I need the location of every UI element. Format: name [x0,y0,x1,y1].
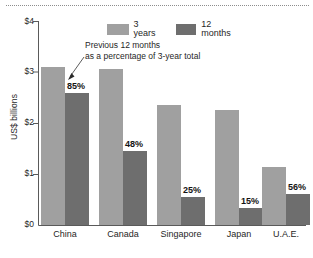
data-label-uae: 56% [288,183,306,192]
annotation-line-2: as a percentage of 3-year total [85,51,200,62]
annotation-line-1: Previous 12 months [85,40,200,51]
bar-canada-3-years [99,69,123,225]
x-tick-uae: U.A.E. [256,230,313,239]
bar-uae-3-years [262,167,286,225]
annotation-arrowhead [68,73,75,80]
chart-annotation: Previous 12 months as a percentage of 3-… [85,40,200,61]
data-label-canada: 48% [125,140,143,149]
bar-singapore-12-months [181,197,205,225]
data-label-china: 85% [67,82,85,91]
plot-area [0,0,313,258]
bar-japan-12-months [239,208,263,225]
x-tick-singapore: Singapore [151,230,211,239]
data-label-singapore: 25% [183,186,201,195]
annotation-leader-line [71,57,85,76]
bar-chart-figure: 3 years 12 months US$ billions $4 $3 $2 … [0,0,313,258]
x-tick-canada: Canada [93,230,153,239]
bar-china-12-months [65,93,89,225]
bar-china-3-years [41,67,65,225]
bar-canada-12-months [123,151,147,225]
bar-uae-12-months [286,194,310,225]
data-label-japan: 15% [241,197,259,206]
x-tick-china: China [35,230,95,239]
bar-japan-3-years [215,110,239,225]
bar-singapore-3-years [157,105,181,225]
